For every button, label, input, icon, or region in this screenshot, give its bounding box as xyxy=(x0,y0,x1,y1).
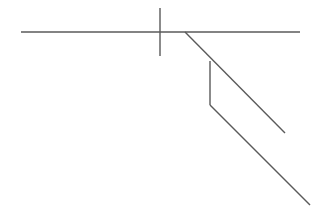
line-diagram xyxy=(0,0,319,211)
